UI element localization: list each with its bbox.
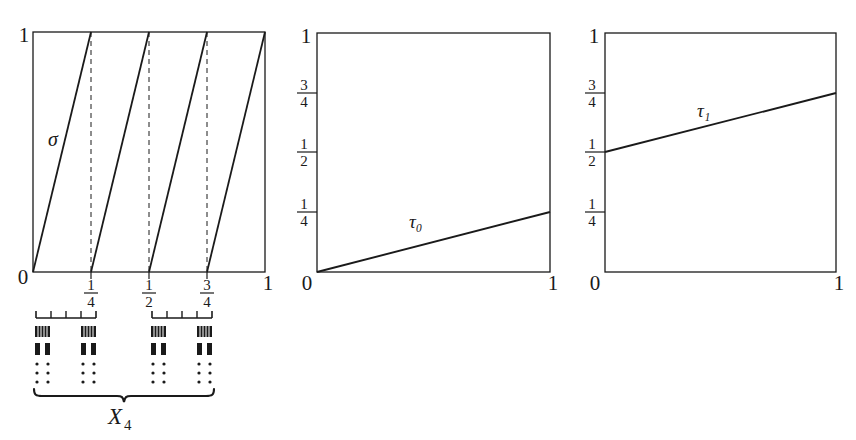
cantor-label-x4: X 4 [107, 404, 132, 433]
svg-text:2: 2 [145, 294, 153, 310]
figure-canvas: σ 1 0 1 4 1 2 3 4 1 [0, 0, 856, 440]
cantor-level2-cluster-1 [35, 326, 50, 337]
svg-text:4: 4 [87, 294, 95, 310]
panel-tau1-ytick-1: 1 [589, 24, 600, 48]
svg-text:1: 1 [588, 196, 596, 212]
panel-tau1: 1 3 4 1 2 1 4 0 1 τ₁ [585, 24, 844, 295]
tau1-curve-label: τ₁ [697, 100, 710, 121]
panel-sigma-xtick-three-quarter: 3 4 [200, 277, 214, 310]
svg-text:1: 1 [300, 196, 308, 212]
panel-tau1-ytick-three-quarter-label: 3 4 [585, 77, 599, 110]
panel-sigma-xtick-quarter: 1 4 [84, 277, 98, 310]
panel-tau0-ytick-three-quarter-label: 3 4 [297, 77, 311, 110]
cantor-label-x: X [107, 404, 123, 429]
cantor-level4-dots [35, 362, 211, 383]
panel-tau0-xtick-1: 1 [548, 271, 559, 295]
svg-text:1: 1 [300, 136, 308, 152]
svg-text:2: 2 [300, 153, 308, 169]
panel-tau0-ytick-quarter-label: 1 4 [297, 196, 311, 229]
panel-sigma-ytick-0: 0 [18, 265, 29, 289]
svg-text:4: 4 [203, 294, 211, 310]
sigma-branch-3 [149, 32, 207, 272]
cantor-level2-cluster-2 [81, 326, 96, 337]
panel-sigma-ytick-1: 1 [19, 23, 30, 47]
sigma-curve-label: σ [48, 128, 59, 150]
cantor-level3 [35, 343, 212, 355]
svg-text:1: 1 [588, 136, 596, 152]
panel-tau0-ytick-half-label: 1 2 [297, 136, 311, 169]
cantor-level2-cluster-4 [197, 326, 212, 337]
panel-tau1-xtick-0: 0 [590, 271, 601, 295]
svg-text:4: 4 [588, 94, 596, 110]
cantor-underbrace [34, 389, 214, 402]
tau0-line [317, 212, 550, 272]
cantor-diagram: X 4 [34, 311, 214, 433]
panel-tau0-frame [317, 33, 550, 272]
panel-tau1-ytick-quarter-label: 1 4 [585, 196, 599, 229]
panel-tau0-ytick-1: 1 [301, 24, 312, 48]
panel-sigma-xtick-1: 1 [263, 271, 274, 295]
panel-tau0: 1 3 4 1 2 1 4 0 1 τ₀ [297, 24, 558, 295]
svg-text:3: 3 [588, 77, 596, 93]
svg-text:4: 4 [300, 94, 308, 110]
svg-text:4: 4 [300, 213, 308, 229]
svg-text:1: 1 [145, 277, 153, 293]
panel-tau1-xtick-1: 1 [834, 271, 845, 295]
panel-sigma: σ 1 0 1 4 1 2 3 4 1 [18, 23, 274, 310]
figure-root: σ 1 0 1 4 1 2 3 4 1 [0, 0, 856, 440]
svg-text:3: 3 [203, 277, 211, 293]
tau0-curve-label: τ₀ [409, 211, 422, 232]
cantor-level1-left [36, 311, 96, 318]
tau1-line [605, 93, 836, 152]
cantor-level1-right [152, 311, 212, 318]
svg-text:2: 2 [588, 153, 596, 169]
panel-tau1-frame [605, 33, 836, 272]
cantor-level2-cluster-3 [151, 326, 166, 337]
svg-text:3: 3 [300, 77, 308, 93]
cantor-label-subscript: 4 [124, 417, 132, 433]
panel-sigma-xtick-half: 1 2 [142, 277, 156, 310]
svg-text:4: 4 [588, 213, 596, 229]
svg-text:1: 1 [87, 277, 95, 293]
cantor-level2 [35, 326, 212, 337]
panel-tau0-xtick-0: 0 [302, 271, 313, 295]
panel-tau1-ytick-half-label: 1 2 [585, 136, 599, 169]
sigma-branch-4 [207, 32, 265, 272]
sigma-branch-2 [91, 32, 149, 272]
sigma-branch-1 [33, 32, 91, 272]
